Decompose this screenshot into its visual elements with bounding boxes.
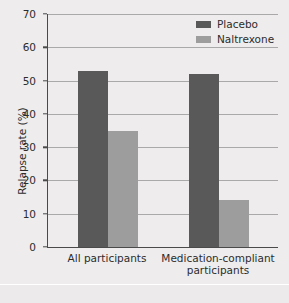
chart-legend: PlaceboNaltrexone xyxy=(196,19,274,49)
x-category-label: Medication-compliant participants xyxy=(158,252,278,277)
x-category-label: All participants xyxy=(47,252,167,264)
bar-naltrexone-group1 xyxy=(108,131,138,248)
gridline xyxy=(48,14,278,15)
y-tick-mark xyxy=(43,246,47,247)
y-tick-label: 70 xyxy=(0,9,36,20)
y-tick-label: 30 xyxy=(0,142,36,153)
legend-label: Naltrexone xyxy=(217,34,274,45)
bar-naltrexone-group2 xyxy=(219,200,249,247)
naltrexone-swatch xyxy=(196,36,211,43)
y-tick-mark xyxy=(43,213,47,214)
legend-item-naltrexone: Naltrexone xyxy=(196,34,274,45)
y-tick-mark xyxy=(43,180,47,181)
y-tick-mark xyxy=(43,146,47,147)
y-tick-mark xyxy=(43,113,47,114)
caption-strip xyxy=(0,284,289,303)
y-tick-label: 10 xyxy=(0,208,36,219)
placebo-swatch xyxy=(196,21,211,28)
y-tick-label: 50 xyxy=(0,75,36,86)
y-tick-label: 40 xyxy=(0,109,36,120)
bar-placebo-group1 xyxy=(78,71,108,247)
y-tick-label: 20 xyxy=(0,175,36,186)
y-tick-mark xyxy=(43,13,47,14)
y-tick-label: 0 xyxy=(0,242,36,253)
y-tick-mark xyxy=(43,80,47,81)
bar-placebo-group2 xyxy=(189,74,219,247)
legend-item-placebo: Placebo xyxy=(196,19,274,30)
legend-label: Placebo xyxy=(217,19,258,30)
plot-area xyxy=(47,14,278,248)
y-tick-label: 60 xyxy=(0,42,36,53)
y-tick-mark xyxy=(43,47,47,48)
